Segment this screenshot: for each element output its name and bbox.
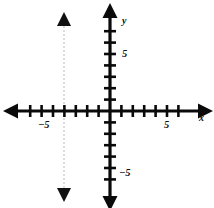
x-axis-label: x (199, 113, 204, 123)
y-axis-tick-label-negative-5: −5 (119, 168, 131, 179)
y-axis-label: y (122, 16, 126, 26)
y-axis-tick-label-positive-5: 5 (122, 49, 127, 60)
plot-canvas (0, 0, 214, 208)
x-axis-tick-label-positive-5: 5 (164, 120, 169, 131)
x-axis-tick-label-negative-5: −5 (38, 120, 50, 131)
coordinate-plane-figure: x y −5 5 5 −5 (0, 0, 214, 208)
